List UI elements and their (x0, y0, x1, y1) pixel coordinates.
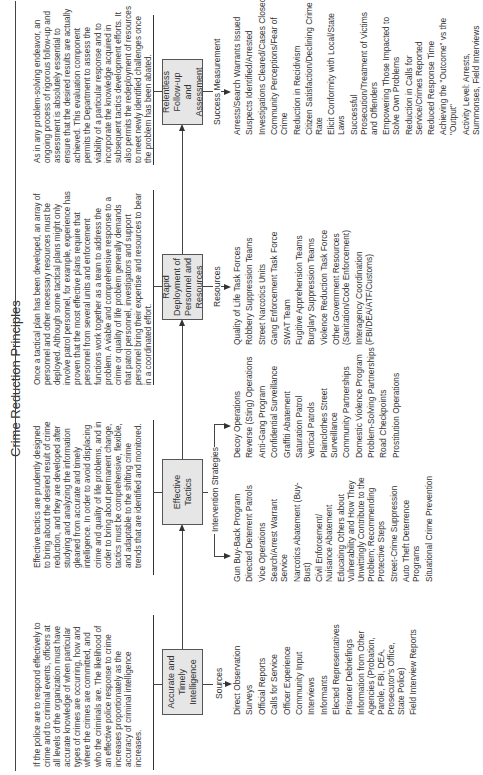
list-item: Civil Enforcement/ Nuisance Abatement (314, 492, 334, 582)
intelligence-box-label: Accurate and Timely Intelligence (166, 650, 199, 714)
deployment-description: Once a tactical plan has been developed,… (33, 189, 154, 385)
list-item: Vice Operations (257, 464, 267, 582)
list-item: Situational Crime Prevention (424, 464, 434, 582)
flow-line-3 (182, 129, 183, 254)
list-item: Informants (319, 585, 329, 715)
success-arrow-icon (224, 89, 231, 95)
intervention-strategies-label: Intervention Strategies (210, 447, 220, 532)
list-item: Decoy Operations (232, 340, 242, 458)
flow-arrow-1-icon (179, 524, 185, 531)
list-item: Street Narcotics Units (257, 215, 267, 345)
followup-box-label: Relentless Follow-up and Assessment (161, 64, 205, 120)
tactics-stub (153, 492, 162, 493)
list-item: Search/Arrest Warrant Service (269, 492, 289, 582)
list-item: Successful Prosecution/Treatment of Vict… (349, 10, 379, 135)
tactics-box-label: Effective Tactics (172, 472, 194, 512)
list-item: Gang Enforcement Task Force (269, 215, 279, 345)
tactics-box: Effective Tactics (162, 459, 203, 525)
list-item: Information from Other Agencies (Probati… (356, 625, 406, 715)
list-item: Citizen Satisfaction/Declining Crime Rat… (304, 0, 324, 135)
list-item: Reduced Response Time (426, 0, 436, 135)
list-item: Confidential Surveillance (269, 340, 279, 458)
list-item: Officer Experience (282, 585, 292, 715)
list-item: Interagency Coordination (FBI/DEA/ATF/Cu… (354, 245, 374, 345)
tactics-connector (203, 492, 208, 493)
list-item: Elected Representatives (331, 585, 341, 715)
deployment-separator (153, 190, 154, 385)
list-item: Reduction in Recidivism (292, 0, 302, 135)
list-item: Suspects Identified/Arrested (244, 0, 254, 135)
list-item: Prostitution Operations (391, 340, 401, 458)
resources-list: Quality of Life Task Forces Robbery Supp… (232, 215, 376, 345)
intelligence-connector (203, 684, 213, 685)
list-item: Direct Observation (232, 585, 242, 715)
intervention-list-right: Decoy Operations Reverse (Sting) Operati… (232, 340, 403, 458)
list-item: Graffiti Abatement (282, 340, 292, 458)
list-item: Community Input (294, 585, 304, 715)
resources-arrow-icon (224, 284, 231, 290)
list-item: Plainclothes Street Surveillance (319, 378, 339, 458)
list-item: Surveys (244, 585, 254, 715)
flow-arrow-2-icon (179, 319, 185, 326)
list-item: Reduction in Calls for Service/Crimes Re… (404, 10, 424, 135)
top-border-line (15, 1, 16, 771)
list-item: Calls for Service (269, 585, 279, 715)
list-item: Domestic Violence Program (354, 340, 364, 458)
tactics-separator (153, 420, 154, 575)
followup-separator (153, 15, 154, 165)
flow-arrow-3-icon (179, 124, 185, 131)
success-measurement-label: Success Measurement (212, 39, 222, 125)
list-item: Community Perceptions/Fear of Crime (269, 0, 289, 135)
list-item: Reverse (Sting) Operations (244, 340, 254, 458)
intelligence-stub (153, 684, 162, 685)
list-item: Saturation Patrol (294, 340, 304, 458)
list-item: Directed Deterrent Patrols (244, 464, 254, 582)
list-item: Anti-Gang Program (257, 340, 267, 458)
list-item: Gun Buy-Back Program (232, 464, 242, 582)
list-item: Road Checkpoints (378, 340, 388, 458)
list-item: Problem-Solving Partnerships (366, 340, 376, 458)
intelligence-separator (153, 615, 154, 770)
deployment-box-label: Rapid Deployment of Personnel and Resour… (161, 257, 205, 317)
list-item: Official Reports (257, 585, 267, 715)
followup-box: Relentless Follow-up and Assessment (162, 59, 203, 125)
list-item: Empowering Those Impacted to Solve Own P… (381, 10, 401, 135)
flow-line-2 (182, 324, 183, 459)
list-item: Field Interview Reports (408, 585, 418, 715)
list-item: Narcotics Abatement (Buy-Bust) (292, 464, 312, 582)
list-item: Elicit Conformity with Local/State Laws (326, 0, 346, 135)
sources-list: Direct Observation Surveys Official Repo… (232, 585, 421, 715)
list-item: Fugitive Apprehension Teams (294, 215, 304, 345)
deployment-box: Rapid Deployment of Personnel and Resour… (162, 254, 203, 320)
list-item: Prisoner Debriefings (344, 585, 354, 715)
list-item: Vertical Patrols (306, 340, 316, 458)
sources-arrow-icon (225, 681, 232, 687)
list-item: Achieving the "Outcome" vs the "Output" (438, 0, 458, 135)
list-item: Street-Crime Suppression (389, 464, 399, 582)
list-item: Community Partnerships (341, 340, 351, 458)
list-item: Interviews (306, 585, 316, 715)
list-item: Burglary Suppression Teams (306, 215, 316, 345)
success-measurement-list: Arrests/Search Warrants Issued Suspects … (232, 0, 483, 135)
list-item: Educating Others about Vulnerability and… (336, 472, 386, 582)
bracket-right-arrow-icon (224, 423, 231, 429)
intervention-list-left: Gun Buy-Back Program Directed Deterrent … (232, 464, 436, 582)
flow-line-1 (182, 529, 183, 649)
intelligence-box: Accurate and Timely Intelligence (162, 649, 203, 715)
list-item: Quality of Life Task Forces (232, 215, 242, 345)
tactics-description: Effective tactics are prudently designed… (33, 418, 144, 568)
bracket-left-arrow-icon (224, 553, 231, 559)
list-item: Auto Theft Deterrence Programs (401, 492, 421, 582)
list-item: Robbery Suppression Teams (244, 215, 254, 345)
intelligence-description: If the police are to respond effectively… (33, 617, 144, 767)
list-item: SWAT Team (282, 215, 292, 345)
list-item: Arrests/Search Warrants Issued (232, 0, 242, 135)
followup-description: As in any problem-solving endeavor, an o… (33, 3, 154, 163)
list-item: Other Government Resources (Sanitation/C… (331, 225, 351, 345)
list-item: Investigations Cleared/Cases Closed (257, 0, 267, 135)
list-item: Violence Reduction Task Force (319, 215, 329, 345)
list-item: Activity Level: Arrests, Summonses, Fiel… (461, 10, 481, 135)
